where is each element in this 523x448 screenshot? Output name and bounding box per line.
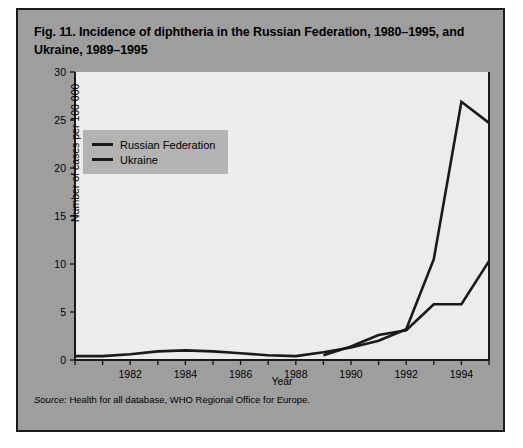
line-chart: 051015202530 198219841986198819901992199… (75, 72, 489, 360)
source-text: Health for all database, WHO Regional Of… (67, 394, 310, 405)
source-note: Source: Health for all database, WHO Reg… (34, 394, 310, 405)
legend-item: Russian Federation (92, 137, 215, 152)
svg-text:20: 20 (54, 162, 66, 174)
y-axis-title: Number of cases per 100 000 (69, 84, 81, 222)
legend-swatch-russian-federation (92, 143, 113, 147)
figure-panel: Fig. 11. Incidence of diphtheria in the … (16, 8, 505, 432)
svg-text:30: 30 (54, 66, 66, 78)
legend-label: Russian Federation (120, 139, 215, 151)
chart-plot-area: 051015202530 198219841986198819901992199… (75, 72, 489, 360)
svg-text:25: 25 (54, 114, 66, 126)
source-prefix: Source: (34, 394, 67, 405)
legend-item: Ukraine (92, 152, 215, 167)
legend-swatch-ukraine (92, 158, 113, 162)
svg-text:15: 15 (54, 210, 66, 222)
legend-label: Ukraine (120, 154, 158, 166)
chart-legend: Russian Federation Ukraine (83, 130, 228, 174)
svg-text:5: 5 (60, 306, 66, 318)
svg-text:10: 10 (54, 258, 66, 270)
svg-text:0: 0 (60, 354, 66, 366)
x-axis-title: Year (75, 375, 489, 387)
figure-title: Fig. 11. Incidence of diphtheria in the … (34, 24, 484, 60)
